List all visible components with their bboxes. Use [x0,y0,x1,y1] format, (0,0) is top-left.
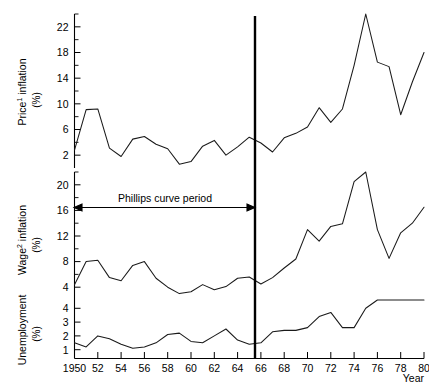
price-axis-unit: (%) [31,92,42,108]
price-ytick-label: 14 [57,72,69,84]
x-tick-label: 60 [185,362,197,374]
wage-ytick-label: 16 [57,204,69,216]
wage-inflation-line [75,172,425,294]
phillips-curve-figure: 2610141822 Price1 inflation (%) 48121620… [0,0,429,391]
wage-y-tick-labels: 48121620 [57,179,69,293]
price-ytick-label: 18 [57,46,69,58]
price-ytick-label: 22 [57,21,69,33]
wage-axis-title-main: Wage [16,248,28,275]
x-tick-label: 72 [325,362,337,374]
x-tick-label: 74 [348,362,360,374]
x-axis-tick-labels: 1950525456586062646668707274767880 [63,362,429,374]
price-ytick-label: 10 [57,98,69,110]
unemployment-ytick-label: 2 [63,330,69,342]
x-axis-group: 1950525456586062646668707274767880 Year [63,352,429,384]
unemployment-line [75,300,425,348]
x-tick-label: 76 [372,362,384,374]
x-tick-label: 56 [139,362,151,374]
unemployment-axis-unit: (%) [31,326,42,342]
wage-axis-unit: (%) [31,237,42,253]
panel-wage: 48121620 Wage2 inflation (%) Phillips cu… [16,172,424,300]
x-tick-label: 54 [115,362,127,374]
price-axis-unit-text: (%) [31,92,42,108]
x-tick-label: 64 [232,362,244,374]
panel-unemployment: 1234 Unemployment (%) [16,295,424,366]
x-tick-label: 58 [162,362,174,374]
unemployment-axis-unit-text: (%) [31,326,42,342]
x-tick-label: 62 [208,362,220,374]
price-ytick-label: 2 [63,149,69,161]
price-inflation-line [75,14,425,164]
wage-y-ticks [75,172,81,287]
annotation-label: Phillips curve period [118,192,212,204]
wage-ytick-label: 20 [57,179,69,191]
x-axis-ticks [75,352,425,359]
panel-price: 2610141822 Price1 inflation (%) [16,14,424,168]
unemployment-axis-title: Unemployment [16,295,28,366]
svg-text:Price1 inflation: Price1 inflation [16,58,28,125]
price-axis-title: Price1 inflation [16,58,28,125]
unemployment-axis-title-text: Unemployment [16,295,28,366]
chart-canvas: 2610141822 Price1 inflation (%) 48121620… [0,0,429,391]
unemployment-ytick-label: 4 [63,302,69,314]
x-tick-label: 70 [302,362,314,374]
unemployment-ytick-label: 1 [63,344,69,356]
x-tick-label: 68 [278,362,290,374]
svg-text:Wage2 inflation: Wage2 inflation [16,205,28,275]
x-tick-label: 1950 [63,362,87,374]
wage-ytick-label: 4 [63,281,69,293]
x-tick-label: 52 [92,362,104,374]
price-ytick-label: 6 [63,123,69,135]
price-y-tick-labels: 2610141822 [57,21,69,161]
x-axis-title: Year [403,372,425,384]
wage-ytick-label: 8 [63,255,69,267]
wage-ytick-label: 12 [57,230,69,242]
x-tick-label: 66 [255,362,267,374]
price-axis-title-rest: inflation [16,58,28,97]
unemployment-ytick-label: 3 [63,316,69,328]
wage-axis-title: Wage2 inflation [16,205,28,275]
price-axis-title-main: Price [16,101,28,125]
wage-axis-unit-text: (%) [31,237,42,253]
unemployment-y-tick-labels: 1234 [63,302,69,355]
phillips-curve-period-annotation: Phillips curve period [74,192,255,211]
wage-axis-title-rest: inflation [16,205,28,244]
